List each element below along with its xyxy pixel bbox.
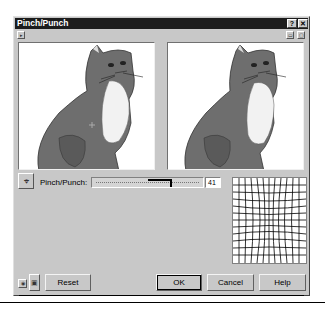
original-preview-pane[interactable] (18, 42, 155, 170)
screen-divider (0, 302, 325, 303)
cat-image-original (19, 43, 155, 170)
slider-fill (148, 179, 171, 181)
pinch-punch-label: Pinch/Punch: (40, 178, 87, 187)
slider-ticks (96, 182, 199, 183)
expand-toggle-button[interactable]: ▸ (17, 31, 25, 39)
crosshair-arrow-icon: ⌖ (24, 176, 29, 186)
preview-mode-single-button[interactable]: ▭ (286, 31, 294, 39)
result-preview-pane (167, 42, 304, 170)
help-button[interactable]: Help (259, 274, 306, 291)
question-icon: ? (290, 20, 294, 27)
dual-preview-icon: ▢ (299, 32, 304, 38)
lock-icon: ▣ (31, 279, 38, 286)
close-button[interactable]: ✕ (298, 19, 308, 28)
preview-icon: ◉ (21, 280, 25, 286)
ok-button[interactable]: OK (156, 274, 202, 291)
chevron-right-icon: ▸ (20, 32, 23, 38)
pinch-punch-dialog: Pinch/Punch ? ✕ ▸ ▭ ▢ ⌖ Pinch/Punch (13, 16, 310, 296)
grid-mesh-icon (233, 178, 306, 263)
preview-mode-dual-button[interactable]: ▢ (297, 31, 305, 39)
cat-image-result (168, 43, 304, 170)
cancel-button[interactable]: Cancel (207, 274, 254, 291)
preview-toggle-button[interactable]: ◉ (18, 279, 27, 288)
lock-button[interactable]: ▣ (29, 274, 40, 291)
reset-button[interactable]: Reset (45, 274, 91, 291)
single-preview-icon: ▭ (288, 32, 293, 38)
pick-center-button[interactable]: ⌖ (18, 173, 34, 189)
close-icon: ✕ (300, 20, 306, 27)
help-title-button[interactable]: ? (287, 19, 297, 28)
status-divider (19, 295, 304, 296)
slider-thumb[interactable] (170, 179, 172, 187)
title-bar[interactable]: Pinch/Punch ? ✕ (15, 18, 308, 29)
pinch-punch-value-input[interactable]: 41 (205, 177, 221, 188)
pinch-punch-slider[interactable] (91, 177, 204, 188)
dialog-title: Pinch/Punch (17, 18, 68, 28)
distortion-grid-preview (232, 177, 307, 264)
